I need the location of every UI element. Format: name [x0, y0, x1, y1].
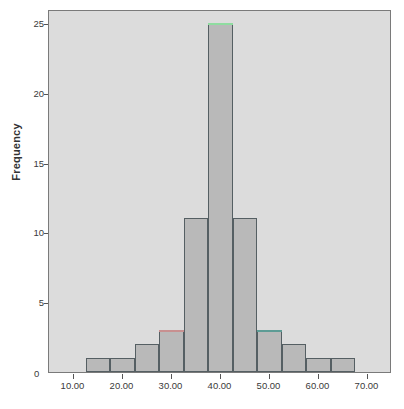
histogram-bar: [257, 330, 282, 372]
histogram-bar: [86, 358, 111, 372]
histogram-bar: [282, 344, 307, 372]
x-tick-mark: [171, 374, 172, 379]
histogram-chart: Frequency 0 510152025 10.0020.0030.0040.…: [0, 0, 404, 409]
histogram-bar-top-highlight: [159, 330, 184, 332]
y-tick-label: 20: [4, 89, 44, 99]
histogram-bar: [306, 358, 331, 372]
plot-area: [48, 10, 391, 373]
histogram-bar: [110, 358, 135, 372]
x-tick-mark: [220, 374, 221, 379]
y-tick-label: 15: [4, 159, 44, 169]
x-tick-label: 70.00: [342, 381, 392, 391]
histogram-bar: [233, 218, 258, 372]
x-tick-label: 10.00: [48, 381, 98, 391]
histogram-bar: [159, 330, 184, 372]
x-tick-label: 60.00: [293, 381, 343, 391]
x-tick-mark: [269, 374, 270, 379]
y-tick-label-zero: 0: [34, 368, 39, 379]
histogram-bar: [331, 358, 356, 372]
histogram-bar: [184, 218, 209, 372]
histogram-bar: [135, 344, 160, 372]
x-tick-mark: [367, 374, 368, 379]
x-tick-mark: [318, 374, 319, 379]
x-tick-mark: [73, 374, 74, 379]
x-tick-label: 50.00: [244, 381, 294, 391]
x-tick-label: 40.00: [195, 381, 245, 391]
bars-container: [49, 11, 390, 372]
y-tick-label: 25: [4, 19, 44, 29]
y-tick-label: 10: [4, 228, 44, 238]
x-tick-label: 30.00: [146, 381, 196, 391]
y-axis-title: Frequency: [10, 92, 22, 212]
x-tick-label: 20.00: [97, 381, 147, 391]
histogram-bar: [208, 23, 233, 372]
histogram-bar-top-highlight: [257, 330, 282, 332]
x-tick-mark: [122, 374, 123, 379]
y-tick-label: 5: [4, 298, 44, 308]
histogram-bar-top-highlight: [208, 23, 233, 25]
